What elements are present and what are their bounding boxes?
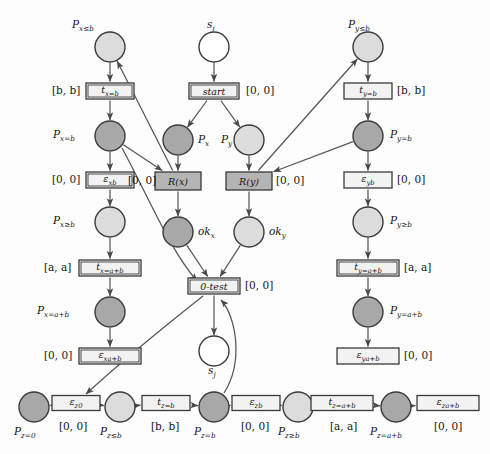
transition-label-tz_eq_b: tz=b bbox=[142, 396, 190, 411]
place-label-Pz_ge_b: Pz≥b bbox=[278, 425, 300, 440]
transition-label-eps_xb: εxb bbox=[86, 172, 134, 188]
transition-label-eps_x_ab: εxa+b bbox=[79, 348, 141, 364]
place-ok_x bbox=[163, 217, 193, 247]
place-Px_eq_ab bbox=[95, 297, 125, 327]
interval-label-eps_zb: [0, 0] bbox=[241, 420, 269, 432]
place-label-Px_eq_ab: Px=a+b bbox=[37, 304, 69, 319]
transition-label-tx_eq_b: tx=b bbox=[86, 83, 134, 99]
interval-label-eps_y_ab: [0, 0] bbox=[404, 349, 432, 361]
interval-label-eps_z_ab: [0, 0] bbox=[434, 420, 462, 432]
interval-label-zero_test: [0, 0] bbox=[245, 279, 273, 291]
place-label-Px_eq_b: Px=b bbox=[53, 128, 75, 143]
transition-label-eps_z_ab: εza+b bbox=[417, 396, 479, 411]
transition-label-eps_y_ab: εya+b bbox=[337, 348, 399, 364]
transition-label-tx_eq_ab: tx=a+b bbox=[79, 260, 141, 276]
transition-label-eps_yb: εyb bbox=[344, 172, 392, 188]
interval-label-start: [0, 0] bbox=[246, 84, 274, 96]
interval-label-R_x: [0, 0] bbox=[128, 174, 156, 186]
transition-label-R_x: R(x) bbox=[155, 172, 201, 190]
place-label-s_i: si bbox=[207, 18, 215, 33]
interval-label-tz_eq_b: [b, b] bbox=[151, 420, 179, 432]
place-label-ok_y: oky bbox=[269, 225, 286, 240]
place-label-Pz_eq_b: Pz=b bbox=[194, 425, 216, 440]
place-Pz_le_b bbox=[105, 392, 135, 422]
arc-Py_eq_b-to-R_y bbox=[274, 142, 354, 172]
interval-label-eps_z0: [0, 0] bbox=[59, 420, 87, 432]
interval-label-ty_eq_ab: [a, a] bbox=[404, 261, 431, 273]
interval-label-R_y: [0, 0] bbox=[276, 174, 304, 186]
place-s_j bbox=[199, 336, 229, 366]
transition-label-eps_z0: εz0 bbox=[52, 396, 100, 411]
interval-label-eps_x_ab: [0, 0] bbox=[44, 349, 72, 361]
arc-R_y-to-Py_le_b bbox=[258, 59, 357, 171]
place-label-Py_eq_b: Py=b bbox=[390, 128, 412, 143]
interval-label-eps_xb: [0, 0] bbox=[52, 173, 80, 185]
place-label-P_x: Px bbox=[198, 133, 209, 148]
interval-label-tx_eq_b: [b, b] bbox=[52, 84, 80, 96]
arc-Px_eq_b-to-R_x bbox=[123, 145, 162, 171]
place-label-Py_ge_b: Py≥b bbox=[390, 214, 412, 229]
place-label-Px_le_b: Px≤b bbox=[72, 18, 94, 33]
arc-tz_eq_b-to-Pz_eq_b bbox=[192, 405, 199, 406]
place-Pz_ge_b bbox=[283, 392, 313, 422]
transition-label-start: start bbox=[189, 83, 239, 99]
transition-label-ty_eq_b: ty=b bbox=[344, 83, 392, 99]
place-Py_le_b bbox=[353, 32, 383, 62]
place-Py_eq_ab bbox=[353, 297, 383, 327]
place-Py_eq_b bbox=[353, 121, 383, 151]
place-label-Py_le_b: Py≤b bbox=[348, 18, 370, 33]
place-Pz_eq_b bbox=[199, 392, 229, 422]
arc-start-to-P_y bbox=[221, 101, 240, 127]
place-ok_y bbox=[234, 217, 264, 247]
transition-label-eps_zb: εzb bbox=[232, 396, 280, 411]
transition-label-zero_test: 0-test bbox=[188, 278, 240, 294]
place-P_y bbox=[234, 125, 264, 155]
place-label-Px_ge_b: Px≥b bbox=[53, 214, 75, 229]
arc-ok_y-to-zero_test bbox=[220, 245, 240, 276]
interval-label-ty_eq_b: [b, b] bbox=[397, 84, 425, 96]
place-label-P_y: Py bbox=[221, 133, 232, 148]
arc-start-to-P_x bbox=[187, 101, 207, 128]
place-Pz_eq_ab bbox=[381, 392, 411, 422]
place-P_x bbox=[163, 125, 193, 155]
transition-label-ty_eq_ab: ty=a+b bbox=[337, 260, 399, 276]
place-Pz_eq_0 bbox=[19, 392, 49, 422]
place-label-Py_eq_ab: Py=a+b bbox=[390, 304, 422, 319]
place-label-Pz_eq_ab: Pz=a+b bbox=[370, 425, 402, 440]
place-label-ok_x: okx bbox=[198, 225, 215, 240]
interval-label-tz_eq_ab: [a, a] bbox=[330, 420, 357, 432]
interval-label-eps_yb: [0, 0] bbox=[397, 173, 425, 185]
interval-label-tx_eq_ab: [a, a] bbox=[44, 261, 71, 273]
place-label-Pz_le_b: Pz≤b bbox=[100, 425, 122, 440]
place-Px_ge_b bbox=[95, 207, 125, 237]
petri-net-figure: Px≤bPx=bPx≥bPx=a+bsiPxPyokxokysjPy≤bPy=b… bbox=[0, 0, 490, 454]
transition-label-R_y: R(y) bbox=[226, 172, 272, 190]
place-s_i bbox=[199, 32, 229, 62]
transition-label-tz_eq_ab: tz=a+b bbox=[311, 396, 373, 411]
place-Py_ge_b bbox=[353, 207, 383, 237]
place-label-Pz_eq_0: Pz=0 bbox=[14, 425, 35, 440]
place-Px_le_b bbox=[95, 32, 125, 62]
place-Px_eq_b bbox=[95, 121, 125, 151]
place-label-s_j: sj bbox=[208, 364, 216, 379]
